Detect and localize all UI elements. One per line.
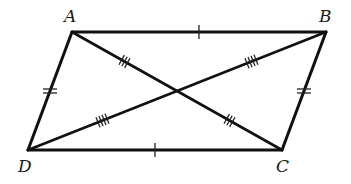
vertex-label-d: D — [17, 156, 32, 176]
diagonals — [28, 32, 326, 150]
parallelogram-diagram: A B C D — [0, 0, 351, 184]
side-da — [28, 32, 72, 150]
side-bc — [282, 32, 326, 150]
vertex-label-c: C — [276, 156, 289, 176]
ticks-ec — [224, 114, 235, 127]
diagonal-bd — [28, 32, 326, 150]
vertex-label-b: B — [318, 6, 332, 26]
ticks-ae — [119, 55, 130, 68]
vertex-label-a: A — [62, 6, 76, 26]
